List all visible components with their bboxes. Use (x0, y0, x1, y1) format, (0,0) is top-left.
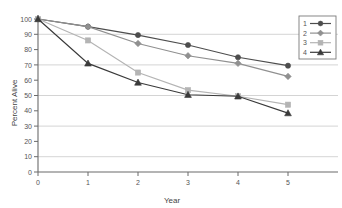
data-point-marker (285, 102, 290, 107)
chart-legend: 1234 (299, 16, 336, 59)
data-point-marker (285, 63, 290, 68)
x-tick-label: 5 (286, 179, 290, 186)
x-tick-label: 0 (36, 179, 40, 186)
data-point-marker (135, 70, 140, 75)
legend-square-marker-icon (318, 40, 323, 45)
y-tick-label: 80 (24, 46, 32, 53)
y-tick-label: 10 (24, 153, 32, 160)
y-tick-label: 30 (24, 123, 32, 130)
y-tick-label: 40 (24, 107, 32, 114)
legend-label-2[interactable]: 2 (303, 30, 307, 37)
data-point-marker (135, 32, 140, 37)
survival-curve-chart: 0102030405060708090100 012345 1234 Perce… (0, 0, 342, 208)
x-tick-label: 1 (86, 179, 90, 186)
y-tick-label: 100 (20, 16, 32, 23)
x-axis-title: Year (164, 196, 181, 205)
legend-circle-marker-icon (318, 21, 323, 26)
y-tick-label: 70 (24, 62, 32, 69)
legend-label-3[interactable]: 3 (303, 39, 307, 46)
y-tick-label: 50 (24, 92, 32, 99)
chart-canvas: 0102030405060708090100 012345 1234 Perce… (0, 0, 342, 208)
y-tick-label: 0 (28, 169, 32, 176)
y-tick-label: 90 (24, 31, 32, 38)
x-tick-label: 3 (186, 179, 190, 186)
x-tick-label: 2 (136, 179, 140, 186)
legend-label-1[interactable]: 1 (303, 20, 307, 27)
y-axis-title: Percent Alive (10, 79, 19, 126)
data-point-marker (185, 42, 190, 47)
data-point-marker (85, 38, 90, 43)
x-tick-label: 4 (236, 179, 240, 186)
data-point-marker (235, 55, 240, 60)
y-tick-label: 20 (24, 138, 32, 145)
legend-label-4[interactable]: 4 (303, 49, 307, 56)
y-tick-label: 60 (24, 77, 32, 84)
